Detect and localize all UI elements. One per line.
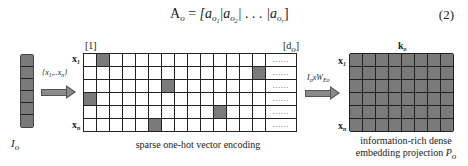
one-hot-cell [227,119,239,131]
one-hot-cell [227,54,239,66]
one-hot-cell [214,80,226,92]
overflow-dots: ...... [266,93,296,105]
one-hot-cell [136,67,148,79]
dense-embedding-cell [376,106,388,118]
one-hot-cell [201,67,213,79]
dense-embedding-cell [428,119,440,131]
dense-embedding-cell [350,93,362,105]
dense-caption-line2: embedding projection Po [350,147,462,162]
one-hot-cell [162,119,174,131]
one-hot-cell [240,80,252,92]
one-hot-cell [214,54,226,66]
one-hot-cell [162,93,174,105]
one-hot-cell-active [84,93,96,105]
one-hot-cell [214,119,226,131]
one-hot-cell [188,67,200,79]
one-hot-cell [162,67,174,79]
dense-embedding-cell [441,93,453,105]
one-hot-cell [240,119,252,131]
one-hot-cell [240,54,252,66]
one-hot-cell [97,80,109,92]
one-hot-cell [240,106,252,118]
one-hot-cell [175,93,187,105]
one-hot-cell [149,93,161,105]
one-hot-cell [110,106,122,118]
one-hot-cell [123,80,135,92]
input-vector-cell [21,103,33,115]
one-hot-cell [162,54,174,66]
dense-embedding-cell [389,67,401,79]
eq-term2: |a [219,6,230,21]
dense-embedding-cell [389,119,401,131]
sparse-col-end-label: [do] [283,40,299,54]
input-vector-cell [21,79,33,91]
dense-embedding-cell [428,67,440,79]
input-vector-cell [21,115,33,127]
dense-embedding-cell [376,93,388,105]
one-hot-cell [123,54,135,66]
one-hot-cell-active [162,80,174,92]
one-hot-cell [253,54,265,66]
dense-embedding-cell [389,54,401,66]
one-hot-cell [188,80,200,92]
one-hot-cell [214,93,226,105]
overflow-dots: ...... [266,80,296,92]
one-hot-cell [84,106,96,118]
one-hot-cell [188,54,200,66]
dense-embedding-cell [441,80,453,92]
sparse-row-bottom-label: xn [72,119,80,131]
one-hot-cell [253,106,265,118]
one-hot-cell [84,119,96,131]
one-hot-cell [149,106,161,118]
dense-embedding-cell [350,106,362,118]
one-hot-cell [188,119,200,131]
one-hot-cell [110,93,122,105]
dense-embedding-cell [402,119,414,131]
dense-embedding-cell [415,67,427,79]
dense-embedding-cell [402,93,414,105]
one-hot-cell [175,67,187,79]
one-hot-cell [201,80,213,92]
dense-embedding-cell [428,93,440,105]
dense-embedding-cell [428,80,440,92]
eq-lhs-sub: o [180,13,185,23]
dense-embedding-cell [389,80,401,92]
dense-embedding-cell [389,93,401,105]
dense-embedding-cell [415,119,427,131]
one-hot-cell [136,80,148,92]
overflow-dots: ...... [266,119,296,131]
eq-term3-sub: or [277,13,284,23]
dense-embedding-cell [350,67,362,79]
input-vector-cell [21,67,33,79]
one-hot-cell [97,106,109,118]
dense-embedding-cell [376,119,388,131]
dense-embedding-cell [415,93,427,105]
dense-embedding-cell [376,80,388,92]
one-hot-cell [188,93,200,105]
one-hot-cell [149,80,161,92]
dense-embedding-cell [363,54,375,66]
one-hot-cell [201,93,213,105]
one-hot-cell [227,93,239,105]
dense-embedding-cell [376,67,388,79]
one-hot-cell-active [149,119,161,131]
eq-term1: [a [200,6,212,21]
dense-embedding-cell [428,54,440,66]
one-hot-cell [123,93,135,105]
dense-embedding-cell [376,54,388,66]
input-vector-cell [21,55,33,67]
arrow1-label: {x1,..xn} [42,68,68,78]
dense-embedding-cell [389,106,401,118]
dense-col-label: ko [398,40,407,52]
one-hot-cell [123,67,135,79]
dense-embedding-cell [350,80,362,92]
dense-embedding-cell [441,67,453,79]
one-hot-cell [97,93,109,105]
one-hot-cell [175,119,187,131]
one-hot-cell-active [97,54,109,66]
one-hot-cell [188,106,200,118]
equation: Ao = [ao1|ao2| . . . |aor] [170,6,289,24]
dense-embedding-cell [350,54,362,66]
one-hot-cell [253,80,265,92]
one-hot-cell [136,93,148,105]
